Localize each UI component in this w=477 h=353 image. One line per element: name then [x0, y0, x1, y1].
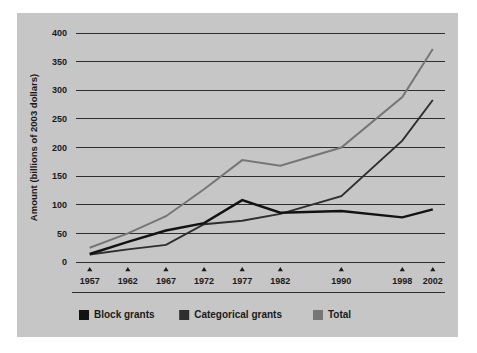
y-tick-label: 150: [52, 171, 67, 181]
x-tick-label: 1967: [156, 276, 176, 286]
x-tick-label: 1957: [80, 276, 100, 286]
x-tick-mark: [87, 267, 92, 271]
x-tick-mark: [163, 267, 168, 271]
x-tick-mark: [278, 267, 283, 271]
gridlines: [76, 33, 445, 262]
y-tick-label: 0: [62, 257, 67, 267]
x-tick-label: 2002: [423, 276, 443, 286]
y-tick-label: 50: [57, 229, 67, 239]
legend-swatch-block-grants: [79, 310, 89, 320]
x-tick-mark: [430, 267, 435, 271]
data-series: [90, 49, 433, 255]
y-tick-label: 100: [52, 200, 67, 210]
x-tick-label: 1972: [194, 276, 214, 286]
x-tick-mark: [400, 267, 405, 271]
legend-label-block-grants: Block grants: [94, 309, 155, 320]
y-tick-label: 300: [52, 85, 67, 95]
legend-label-total: Total: [328, 309, 351, 320]
chart-legend: Block grantsCategorical grantsTotal: [79, 309, 351, 320]
y-tick-label: 350: [52, 57, 67, 67]
legend-swatch-total: [313, 310, 323, 320]
x-tick-label: 1998: [392, 276, 412, 286]
figure-panel: 050100150200250300350400 195719621967197…: [17, 13, 458, 337]
legend-swatch-categorical-grants: [179, 310, 189, 320]
y-axis-title: Amount (billions of 2003 dollars): [28, 74, 39, 221]
y-tick-label: 250: [52, 114, 67, 124]
x-tick-label: 1990: [331, 276, 351, 286]
x-tick-label: 1977: [232, 276, 252, 286]
x-tick-mark: [240, 267, 245, 271]
x-axis-tick-labels: 195719621967197219771982199019982002: [80, 276, 443, 286]
x-tick-mark: [339, 267, 344, 271]
x-tick-mark: [201, 267, 206, 271]
legend-label-categorical-grants: Categorical grants: [194, 309, 282, 320]
y-tick-label: 200: [52, 143, 67, 153]
series-line-categorical-grants: [90, 100, 433, 255]
line-chart: 050100150200250300350400 195719621967197…: [17, 13, 458, 337]
y-axis-tick-labels: 050100150200250300350400: [52, 28, 67, 267]
x-tick-label: 1982: [270, 276, 290, 286]
x-tick-label: 1962: [118, 276, 138, 286]
y-tick-label: 400: [52, 28, 67, 38]
chart-screenshot: 050100150200250300350400 195719621967197…: [0, 0, 477, 353]
x-axis-tick-marks: [87, 267, 435, 271]
x-tick-mark: [125, 267, 130, 271]
